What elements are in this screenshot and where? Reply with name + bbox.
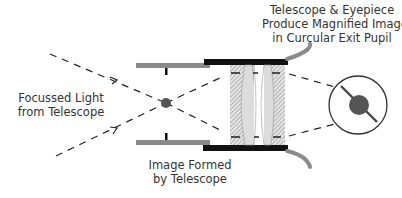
eyepiece-barrel-bottom	[203, 145, 288, 151]
focussed-light-label-line1: Focussed Light	[2, 91, 120, 105]
drawtube-bottom	[136, 140, 210, 145]
diverging-ray-upper	[166, 77, 222, 103]
eyecup-top	[287, 44, 310, 59]
exit-pupil-label-line2: Produce Magnified Image	[262, 17, 402, 31]
exit-pupil-label-line1: Telescope & Eyepiece	[262, 3, 402, 17]
field-stop-top	[165, 68, 168, 75]
lens-element-1	[241, 65, 256, 145]
arrowhead-lower-icon	[110, 127, 117, 134]
focal-image-dot	[161, 98, 171, 108]
exit-pupil-image-dot	[349, 95, 369, 115]
diverging-ray-lower	[166, 103, 222, 131]
image-formed-label-line2: by Telescope	[128, 172, 252, 186]
drawtube-top	[136, 63, 210, 68]
exit-pupil-label-line3: in Curcular Exit Pupil	[262, 31, 402, 45]
eyepiece-barrel-top	[204, 59, 288, 65]
field-stop-bottom	[165, 133, 168, 140]
exit-rays	[289, 74, 335, 136]
focussed-light-label: Focussed Light from Telescope	[2, 91, 120, 119]
focussed-light-label-line2: from Telescope	[2, 105, 120, 119]
image-formed-label-line1: Image Formed	[128, 158, 252, 172]
exit-pupil-label: Telescope & Eyepiece Produce Magnified I…	[262, 3, 402, 45]
image-formed-label: Image Formed by Telescope	[128, 158, 252, 186]
eyecup-bottom	[287, 151, 310, 167]
